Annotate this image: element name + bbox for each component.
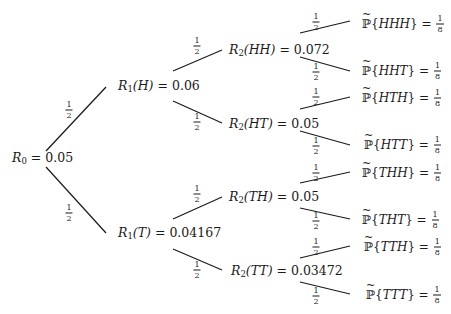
fraction-numerator: 1 — [312, 137, 319, 147]
fraction-numerator: 1 — [312, 13, 319, 23]
node-argument: (HT) — [244, 116, 273, 131]
fraction-numerator: 1 — [312, 212, 319, 222]
node-argument: (TT) — [246, 263, 273, 278]
fraction-denominator: 2 — [194, 47, 199, 56]
fraction-denominator: 8 — [435, 248, 440, 257]
node-r1-t: R1(T) = 0.04167 — [118, 227, 221, 240]
leaf-hhh: ℙ{HHH} = 18 — [362, 15, 445, 34]
fraction-numerator: 1 — [434, 164, 441, 174]
node-symbol: R — [12, 150, 21, 165]
risk-neutral-measure-icon: ℙ — [362, 167, 371, 179]
edge-prob-r1t-up: 12 — [193, 185, 200, 204]
node-symbol: R — [229, 189, 238, 204]
leaf-outcome: HTH — [379, 91, 408, 105]
fraction-numerator: 1 — [312, 88, 319, 98]
leaf-outcome: THH — [379, 166, 408, 180]
fraction-numerator: 1 — [312, 287, 319, 297]
fraction-numerator: 1 — [65, 101, 72, 111]
fraction-numerator: 1 — [432, 211, 439, 221]
leaf-probability: 18 — [434, 164, 441, 183]
leaf-outcome: HHT — [379, 64, 408, 78]
leaf-tth: ℙ{TTH} = 18 — [364, 238, 442, 257]
risk-neutral-measure-icon: ℙ — [366, 289, 375, 301]
node-symbol: R — [231, 263, 240, 278]
fraction-denominator: 2 — [313, 73, 318, 82]
equals-sign: = — [422, 17, 432, 31]
leaf-tht: ℙ{THT} = 18 — [362, 211, 440, 230]
node-subscript: 0 — [21, 156, 26, 166]
interest-rate-tree-diagram: R0 = 0.05 R1(H) = 0.06 R1(T) = 0.04167 R… — [0, 0, 451, 314]
node-argument: (H) — [133, 78, 154, 93]
node-value: 0.05 — [291, 189, 319, 204]
equals-sign: = — [31, 150, 41, 165]
leaf-probability: 18 — [434, 62, 441, 81]
fraction-denominator: 8 — [434, 296, 439, 305]
fraction-denominator: 2 — [313, 222, 318, 231]
fraction-numerator: 1 — [433, 286, 440, 296]
leaf-htt: ℙ{HTT} = 18 — [364, 136, 442, 155]
fraction-denominator: 2 — [313, 297, 318, 306]
fraction-denominator: 8 — [435, 72, 440, 81]
fraction-denominator: 2 — [194, 195, 199, 204]
node-r0: R0 = 0.05 — [12, 152, 73, 165]
node-value: 0.05 — [45, 150, 73, 165]
edge-r2ht-htt — [300, 131, 350, 145]
fraction-denominator: 2 — [66, 214, 71, 223]
leaf-outcome: THT — [379, 213, 405, 227]
node-value: 0.05 — [291, 116, 319, 131]
leaf-probability: 18 — [436, 15, 443, 34]
fraction-denominator: 8 — [435, 99, 440, 108]
edge-r2hh-hht — [300, 57, 350, 71]
node-r2-ht: R2(HT) = 0.05 — [229, 118, 319, 131]
edge-prob-r0-down: 12 — [65, 204, 72, 223]
equals-sign: = — [157, 78, 167, 93]
equals-sign: = — [419, 64, 429, 78]
fraction-numerator: 1 — [193, 113, 200, 123]
fraction-denominator: 8 — [435, 174, 440, 183]
fraction-denominator: 2 — [313, 248, 318, 257]
leaf-outcome: HTT — [381, 138, 408, 152]
edge-r2hh-hhh — [300, 21, 350, 33]
fraction-numerator: 1 — [312, 63, 319, 73]
leaf-probability: 18 — [434, 136, 441, 155]
edge-r2th-tht — [300, 208, 350, 219]
edge-r2th-thh — [300, 172, 350, 183]
edge-prob-r2ht-down: 12 — [312, 137, 319, 156]
fraction-denominator: 8 — [435, 146, 440, 155]
fraction-denominator: 2 — [194, 271, 199, 280]
fraction-denominator: 8 — [437, 25, 442, 34]
fraction-numerator: 1 — [434, 62, 441, 72]
fraction-denominator: 2 — [313, 98, 318, 107]
equals-sign: = — [419, 91, 429, 105]
edge-r2tt-ttt — [300, 282, 350, 294]
edge-prob-r2hh-up: 12 — [312, 13, 319, 32]
edge-prob-r0-up: 12 — [65, 101, 72, 120]
fraction-numerator: 1 — [193, 37, 200, 47]
node-argument: (TH) — [244, 189, 273, 204]
leaf-hht: ℙ{HHT} = 18 — [362, 62, 442, 81]
equals-sign: = — [277, 263, 287, 278]
leaf-ttt: ℙ{TTT} = 18 — [366, 286, 442, 305]
edge-prob-r2tt-down: 12 — [312, 287, 319, 306]
node-argument: (T) — [133, 225, 151, 240]
node-r1-h: R1(H) = 0.06 — [118, 80, 200, 93]
fraction-denominator: 8 — [433, 221, 438, 230]
risk-neutral-measure-icon: ℙ — [362, 214, 371, 226]
edge-prob-r2th-down: 12 — [312, 212, 319, 231]
node-symbol: R — [229, 116, 238, 131]
leaf-probability: 18 — [434, 238, 441, 257]
risk-neutral-measure-icon: ℙ — [362, 92, 371, 104]
risk-neutral-measure-icon: ℙ — [364, 139, 373, 151]
equals-sign: = — [417, 213, 427, 227]
node-value: 0.03472 — [291, 263, 343, 278]
node-value: 0.06 — [172, 78, 200, 93]
edge-r0-r1h — [46, 87, 106, 151]
node-r2-th: R2(TH) = 0.05 — [229, 191, 319, 204]
leaf-outcome: HHH — [379, 17, 410, 31]
equals-sign: = — [279, 42, 289, 57]
fraction-denominator: 2 — [313, 174, 318, 183]
risk-neutral-measure-icon: ℙ — [364, 241, 373, 253]
fraction-numerator: 1 — [65, 204, 72, 214]
edge-r2tt-tth — [300, 246, 350, 258]
edge-prob-r2tt-up: 12 — [312, 238, 319, 257]
